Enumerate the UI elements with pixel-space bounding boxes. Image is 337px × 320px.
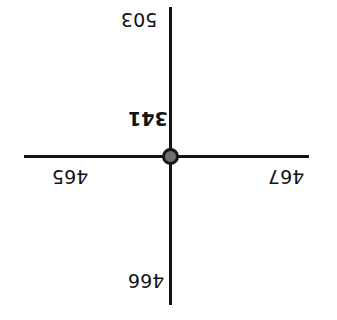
label-center: 341	[128, 109, 168, 128]
label-left: 465	[52, 167, 88, 186]
label-top: 503	[121, 10, 157, 29]
label-bottom: 466	[128, 271, 164, 290]
label-right: 467	[268, 167, 304, 186]
center-node-marker	[162, 148, 179, 165]
cross-diagram: 503 341 465 467 466	[0, 0, 337, 320]
